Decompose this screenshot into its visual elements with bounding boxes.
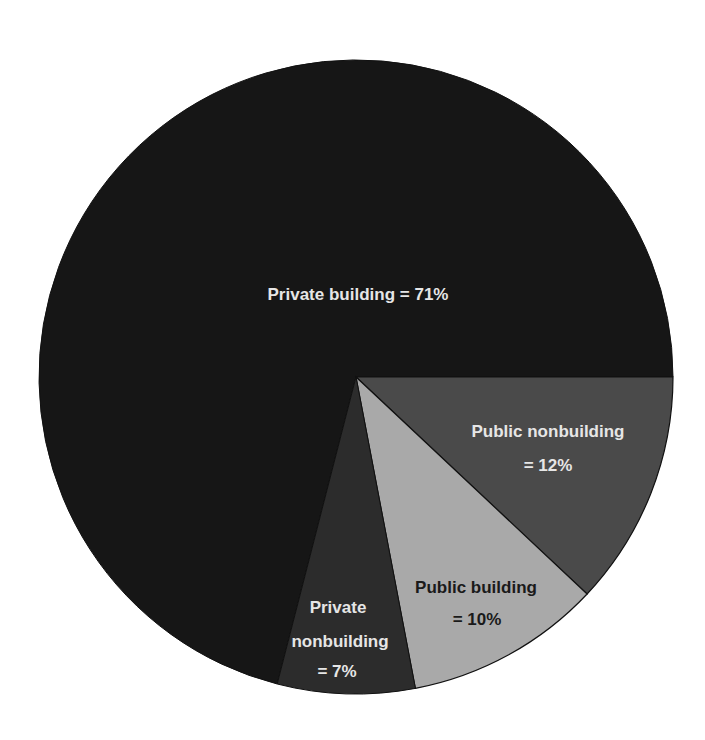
pie-chart: Private building = 71% Public nonbuildin… xyxy=(0,0,705,740)
label-public-nonbuilding-name: Public nonbuilding xyxy=(472,422,625,441)
label-private-nonbuilding-line2: nonbuilding xyxy=(291,632,388,651)
label-public-building-value: = 10% xyxy=(453,610,502,629)
pie-chart-svg: Private building = 71% Public nonbuildin… xyxy=(0,0,705,740)
label-private-nonbuilding-value: = 7% xyxy=(317,662,356,681)
label-private-building: Private building = 71% xyxy=(268,285,449,304)
label-private-nonbuilding-line1: Private xyxy=(310,598,367,617)
label-public-nonbuilding-value: = 12% xyxy=(524,456,573,475)
label-public-building-name: Public building xyxy=(415,578,537,597)
